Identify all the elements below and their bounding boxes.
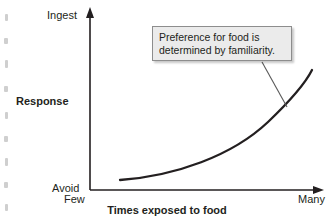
callout-text-line-1: Preference for food is (159, 31, 285, 44)
callout-text-line-2: determined by familiarity. (159, 44, 285, 57)
callout-box: Preference for food is determined by fam… (152, 26, 292, 61)
x-axis-start-label: Few (64, 194, 85, 205)
y-axis-arrowhead (86, 7, 94, 18)
response-curve (120, 70, 312, 180)
callout-leader-line (262, 62, 287, 107)
y-axis-top-label: Ingest (47, 10, 77, 21)
figure-container: Ingest Avoid Few Many Response Times exp… (0, 0, 334, 222)
x-axis-title: Times exposed to food (0, 205, 334, 216)
x-axis-end-label: Many (298, 194, 325, 205)
y-axis-title: Response (16, 96, 69, 107)
